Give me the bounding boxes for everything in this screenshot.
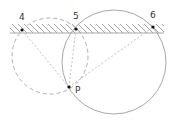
label-P: P [75, 85, 81, 95]
geometry-diagram: 4 5 6 P [0, 0, 181, 125]
label-4: 4 [19, 12, 25, 22]
point-4 [20, 28, 23, 31]
solid-circle [62, 10, 166, 114]
segment-P-6 [69, 27, 153, 87]
point-5 [74, 27, 77, 30]
label-5: 5 [73, 11, 79, 21]
point-6 [151, 25, 154, 28]
point-P [67, 85, 70, 88]
label-6: 6 [150, 10, 156, 20]
segment-P-5 [69, 29, 76, 87]
hatch-mark [168, 24, 177, 33]
